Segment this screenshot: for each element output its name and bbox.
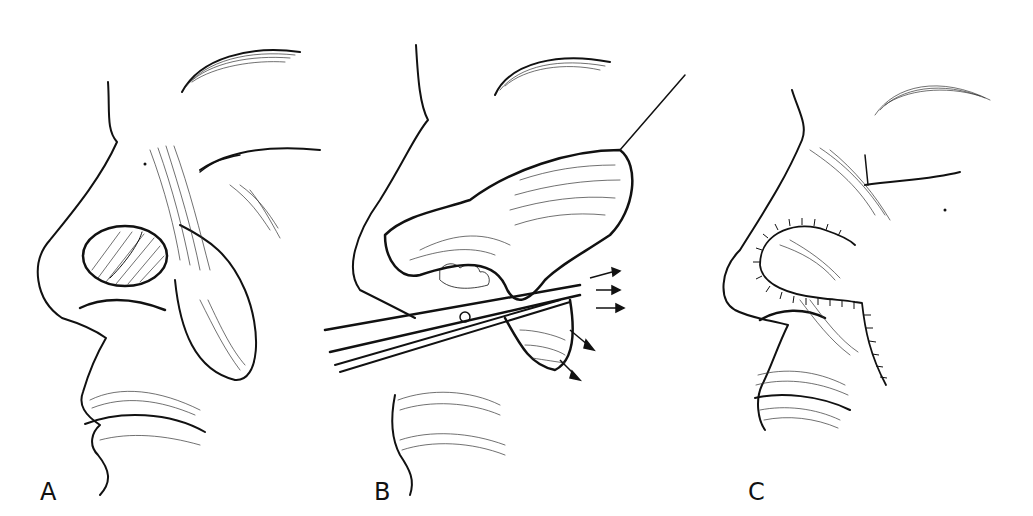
panel-b: B [320,0,690,516]
panel-c-drawing [690,0,1033,516]
panel-c: C [690,0,1033,516]
panel-a: A [0,0,330,516]
panel-label-b: B [374,478,390,506]
panel-a-drawing [0,0,330,516]
panel-label-c: C [748,478,765,506]
panel-label-a: A [40,478,56,506]
surgical-illustration-figure: A [0,0,1033,516]
cropped-caption-text [560,508,1033,516]
panel-b-drawing [320,0,690,516]
